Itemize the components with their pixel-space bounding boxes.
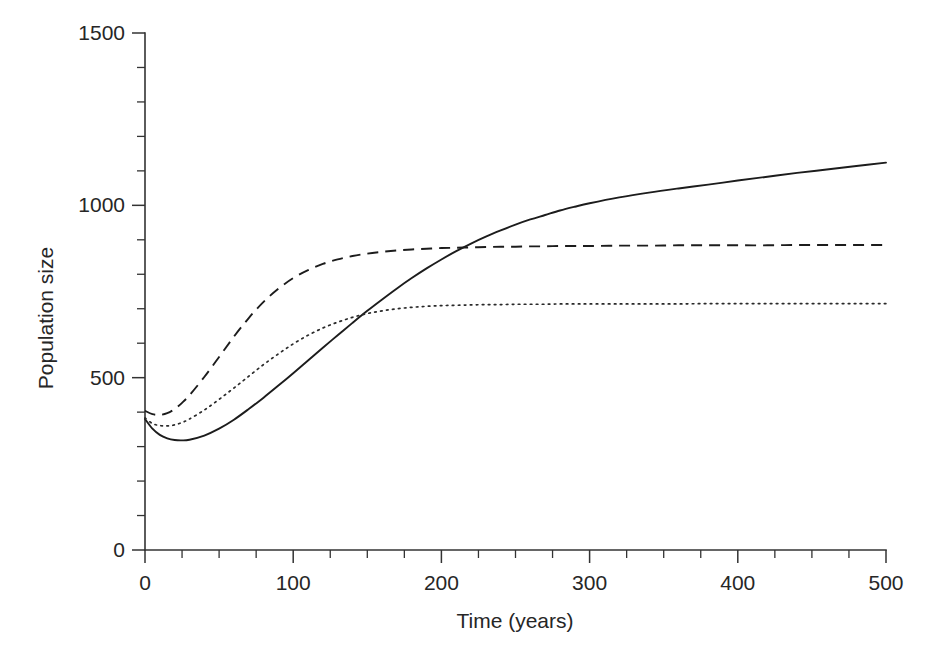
x-axis-title: Time (years) xyxy=(456,609,573,632)
y-tick-label: 0 xyxy=(113,538,125,561)
y-axis: 050010001500 xyxy=(78,21,145,561)
x-axis: 0100200300400500 xyxy=(139,550,903,594)
y-tick-label: 1000 xyxy=(78,193,125,216)
x-tick-label: 100 xyxy=(276,571,311,594)
chart-figure: 050010001500 0100200300400500 Time (year… xyxy=(0,0,947,661)
y-tick-label: 1500 xyxy=(78,21,125,44)
y-tick-label: 500 xyxy=(90,366,125,389)
y-axis-title: Population size xyxy=(34,247,57,389)
series-dotted-curve xyxy=(145,304,886,426)
series-solid-curve xyxy=(145,163,886,441)
x-tick-label: 400 xyxy=(720,571,755,594)
x-tick-label: 0 xyxy=(139,571,151,594)
population-growth-chart: 050010001500 0100200300400500 Time (year… xyxy=(0,0,947,661)
x-axis-tick-labels: 0100200300400500 xyxy=(139,571,903,594)
x-tick-label: 200 xyxy=(424,571,459,594)
x-tick-label: 500 xyxy=(868,571,903,594)
y-axis-tick-labels: 050010001500 xyxy=(78,21,125,561)
y-axis-ticks xyxy=(132,33,145,550)
data-series-group xyxy=(145,163,886,441)
series-dashed-curve xyxy=(145,245,886,415)
x-tick-label: 300 xyxy=(572,571,607,594)
x-axis-ticks xyxy=(145,550,886,563)
